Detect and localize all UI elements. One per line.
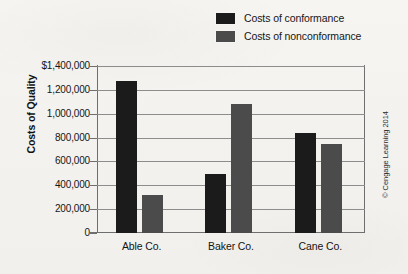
legend-swatch-nonconformance [216, 31, 235, 42]
y-axis-tick [90, 161, 97, 162]
legend-label-nonconformance: Costs of nonconformance [244, 30, 361, 42]
x-axis-tick-label: Baker Co. [186, 240, 276, 252]
y-axis-tick-label: 1,000,000 [4, 109, 90, 119]
bar-group [205, 66, 252, 233]
y-axis-tick-label: 1,200,000 [4, 85, 90, 95]
bar [321, 144, 342, 233]
y-axis-tick-label: 800,000 [4, 133, 90, 143]
legend-item-nonconformance: Costs of nonconformance [216, 29, 361, 43]
plot-area [97, 66, 365, 233]
legend-label-conformance: Costs of conformance [244, 12, 344, 24]
y-axis-tick [90, 233, 97, 234]
chart-page: Costs of conformance Costs of nonconform… [0, 0, 408, 274]
y-axis-tick-label: 600,000 [4, 156, 90, 166]
bar [295, 133, 316, 233]
y-axis-tick [90, 138, 97, 139]
y-axis-tick-label: 400,000 [4, 180, 90, 190]
x-axis-tick-label: Cane Co. [275, 240, 365, 252]
bar [142, 195, 163, 233]
y-axis-tick [90, 90, 97, 91]
bar [231, 104, 252, 233]
y-axis-tick [90, 114, 97, 115]
x-axis-tick-labels: Able Co.Baker Co.Cane Co. [97, 240, 365, 256]
chart-legend: Costs of conformance Costs of nonconform… [216, 11, 361, 43]
legend-item-conformance: Costs of conformance [216, 11, 361, 25]
bar-group [116, 66, 163, 233]
bar [116, 81, 137, 233]
y-axis-tick [90, 209, 97, 210]
y-axis-tick-label: 0 [4, 228, 90, 238]
x-axis-tick-label: Able Co. [97, 240, 187, 252]
y-axis-tick [90, 185, 97, 186]
bar-group [295, 66, 342, 233]
y-axis-tick-label: $1,400,000 [4, 61, 90, 71]
y-axis-tick [90, 66, 97, 67]
legend-swatch-conformance [216, 13, 235, 24]
y-axis-tick-label: 200,000 [4, 204, 90, 214]
y-axis-tick-labels: $1,400,0001,200,0001,000,000800,000600,0… [0, 66, 90, 233]
bar [205, 174, 226, 233]
copyright-notice: © Cengage Learning 2014 [381, 100, 390, 210]
